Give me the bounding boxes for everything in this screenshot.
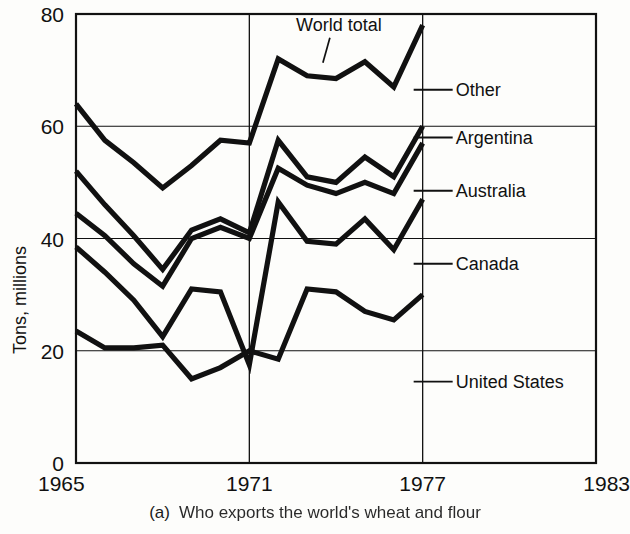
x-tick-labels: 1965197119771983	[38, 472, 630, 495]
y-axis-title: Tons, millions	[10, 246, 30, 354]
series-label-australia: Australia	[456, 181, 527, 201]
annotation-leader-line	[323, 38, 330, 63]
annotation-world-total: World total	[296, 15, 382, 35]
series-label-canada: Canada	[456, 254, 520, 274]
y-tick-label-40: 40	[41, 228, 64, 251]
x-tick-label-1977: 1977	[399, 472, 446, 495]
series-label-argentina: Argentina	[456, 128, 534, 148]
y-tick-label-20: 20	[41, 340, 64, 363]
series-label-united-states: United States	[456, 372, 564, 392]
y-gridlines	[76, 126, 596, 351]
caption-number: (a)	[149, 503, 170, 522]
x-tick-label-1965: 1965	[38, 472, 85, 495]
series-label-other: Other	[456, 80, 501, 100]
y-tick-labels: 020406080	[41, 3, 64, 475]
x-tick-label-1971: 1971	[226, 472, 273, 495]
figure-panel: 020406080 1965197119771983 OtherArgentin…	[0, 0, 630, 534]
x-tick-label-1983: 1983	[583, 472, 630, 495]
caption-text: Who exports the world's wheat and flour	[179, 503, 481, 523]
wheat-flour-exports-line-chart: 020406080 1965197119771983 OtherArgentin…	[0, 0, 630, 534]
series-right-labels: OtherArgentinaAustraliaCanadaUnited Stat…	[414, 80, 564, 392]
figure-caption: (a)Who exports the world's wheat and flo…	[0, 503, 630, 523]
chart-annotations: World total	[296, 15, 382, 63]
y-tick-label-80: 80	[41, 3, 64, 26]
y-tick-label-60: 60	[41, 115, 64, 138]
